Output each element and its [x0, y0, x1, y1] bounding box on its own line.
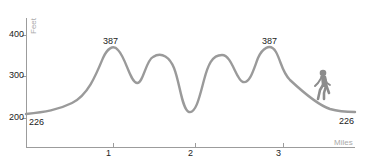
peak-right-label: 387 [262, 37, 277, 46]
hiker-icon [315, 70, 330, 99]
start-elevation-label: 226 [29, 118, 44, 127]
peak-left-label: 387 [103, 37, 118, 46]
end-elevation-label: 226 [339, 117, 354, 126]
x-axis-title: Miles [334, 138, 353, 147]
elevation-line [26, 47, 355, 114]
chart-svg [0, 0, 365, 168]
x-tick-label: 1 [106, 149, 111, 158]
x-tick-label: 2 [188, 149, 193, 158]
y-tick-label: 200 [9, 113, 24, 122]
elevation-chart: Feet 400 300 200 1 2 3 Miles 226 387 387… [0, 0, 365, 168]
x-tick-label: 3 [276, 149, 281, 158]
y-axis-title: Feet [29, 18, 38, 34]
y-tick-label: 400 [9, 30, 24, 39]
y-tick-label: 300 [9, 71, 24, 80]
